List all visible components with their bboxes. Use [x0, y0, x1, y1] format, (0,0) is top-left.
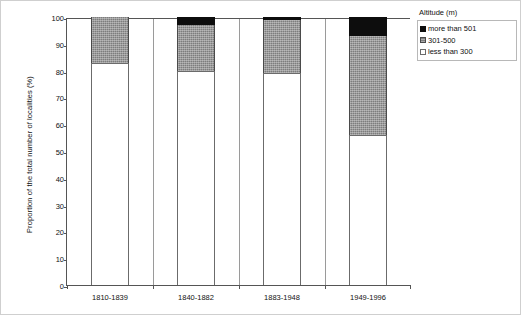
bar-1949-1996[interactable] [349, 17, 387, 285]
bar-1810-1839[interactable] [91, 17, 129, 285]
bar-segment-301-500[interactable] [91, 17, 129, 63]
y-tick-mark [64, 207, 67, 208]
bar-segment-301-500[interactable] [263, 20, 301, 74]
y-tick-mark [64, 73, 67, 74]
y-tick-mark [64, 99, 67, 100]
y-tick-label: 90 [40, 42, 64, 50]
x-tick-mark [410, 285, 411, 289]
x-tick-mark [325, 285, 326, 289]
legend-item-2[interactable]: less than 300 [420, 46, 514, 58]
y-tick-label: 60 [40, 122, 64, 130]
category-separator [325, 19, 326, 285]
bar-segment-more-than-501[interactable] [263, 17, 301, 20]
y-tick-label: 30 [40, 203, 64, 211]
bar-1840-1882[interactable] [177, 17, 215, 285]
y-tick-mark [64, 233, 67, 234]
bar-segment-less-than-300[interactable] [177, 71, 215, 285]
bar-segment-301-500[interactable] [177, 25, 215, 71]
x-tick-label: 1810-1839 [92, 293, 128, 302]
legend-item-label: 301-500 [428, 35, 456, 47]
bar-segment-less-than-300[interactable] [91, 63, 129, 285]
legend-item-label: less than 300 [428, 46, 473, 58]
legend-item-1[interactable]: 301-500 [420, 35, 514, 47]
y-tick-mark [64, 180, 67, 181]
y-tick-label: 100 [40, 15, 64, 23]
x-tick-mark [153, 285, 154, 289]
bar-segment-less-than-300[interactable] [349, 135, 387, 285]
plot-area: 01020304050607080901001810-18391840-1882… [66, 18, 410, 286]
legend-title: Altitude (m) [419, 8, 517, 17]
y-tick-mark [64, 153, 67, 154]
x-tick-label: 1949-1996 [350, 293, 386, 302]
bar-segment-less-than-300[interactable] [263, 73, 301, 285]
bar-1883-1948[interactable] [263, 17, 301, 285]
x-tick-mark [67, 285, 68, 289]
x-tick-label: 1840-1882 [178, 293, 214, 302]
x-tick-mark [239, 285, 240, 289]
legend-item-label: more than 501 [428, 23, 476, 35]
y-tick-label: 80 [40, 69, 64, 77]
x-tick-label: 1883-1948 [264, 293, 300, 302]
bar-segment-301-500[interactable] [349, 36, 387, 135]
black-swatch-icon [420, 26, 426, 32]
y-tick-label: 10 [40, 256, 64, 264]
y-tick-mark [64, 126, 67, 127]
chart-legend: Altitude (m) more than 501301-500less th… [417, 8, 517, 61]
y-tick-label: 70 [40, 96, 64, 104]
gray-hatched-swatch-icon [420, 37, 426, 43]
y-axis-title: Proportion of the total number of locali… [25, 25, 34, 285]
legend-item-0[interactable]: more than 501 [420, 23, 514, 35]
y-tick-mark [64, 19, 67, 20]
chart-container: Proportion of the total number of locali… [0, 0, 521, 315]
legend-items-box: more than 501301-500less than 300 [417, 20, 517, 61]
bar-segment-more-than-501[interactable] [177, 17, 215, 25]
y-tick-mark [64, 46, 67, 47]
y-tick-mark [64, 260, 67, 261]
y-tick-label: 0 [40, 283, 64, 291]
category-separator [153, 19, 154, 285]
y-tick-label: 50 [40, 149, 64, 157]
bar-segment-more-than-501[interactable] [349, 17, 387, 36]
y-tick-label: 20 [40, 230, 64, 238]
y-tick-label: 40 [40, 176, 64, 184]
white-swatch-icon [420, 49, 426, 55]
category-separator [239, 19, 240, 285]
